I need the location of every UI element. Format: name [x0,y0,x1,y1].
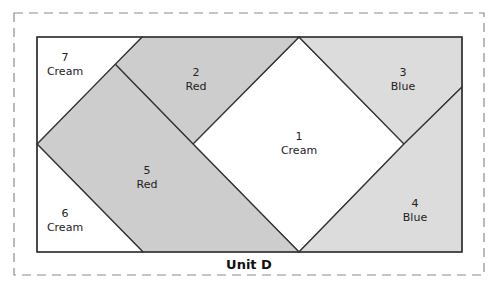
patch-fabric-label: Blue [391,80,416,93]
patch-fabric-label: Cream [47,221,83,234]
unit-title: Unit D [226,257,272,272]
patch-number-label: 1 [296,130,303,143]
patch-fabric-label: Cream [47,65,83,78]
patch-fabric-label: Blue [403,211,428,224]
patch-number-label: 5 [144,164,151,177]
patch-number-label: 7 [62,51,69,64]
patch-fabric-label: Cream [281,144,317,157]
patch-number-label: 3 [400,66,407,79]
patch-number-label: 6 [62,207,69,220]
patch-fabric-label: Red [137,178,158,191]
patch-number-label: 4 [412,197,419,210]
patch-fabric-label: Red [186,80,207,93]
patch-number-label: 2 [193,66,200,79]
patch-group [37,37,462,252]
quilt-unit-diagram: 1Cream2Red3Blue4Blue5Red6Cream7Cream Uni… [0,0,490,288]
